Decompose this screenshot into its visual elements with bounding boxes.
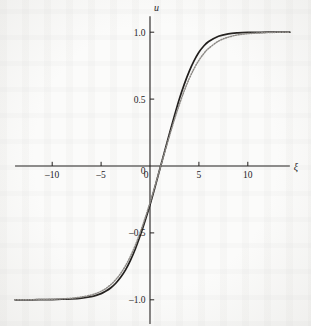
y-tick-label: 0.5 <box>134 95 146 105</box>
labels-layer: –10–505101.00.50–0.5–1.0uξ <box>44 2 299 305</box>
y-tick-label: 0 <box>141 166 146 176</box>
figure-container: –10–505101.00.50–0.5–1.0uξ <box>0 0 311 326</box>
x-axis-label: ξ <box>294 161 299 173</box>
x-tick-label: 5 <box>197 170 202 180</box>
x-tick-label: 10 <box>243 170 253 180</box>
chart-canvas: –10–505101.00.50–0.5–1.0uξ <box>0 0 311 326</box>
y-tick-label: –0.5 <box>128 228 146 238</box>
y-axis-label: u <box>154 2 159 13</box>
y-tick-label: 1.0 <box>134 28 146 38</box>
x-tick-label: –5 <box>95 170 106 180</box>
x-tick-label: –10 <box>44 170 60 180</box>
y-tick-label: –1.0 <box>128 295 146 305</box>
